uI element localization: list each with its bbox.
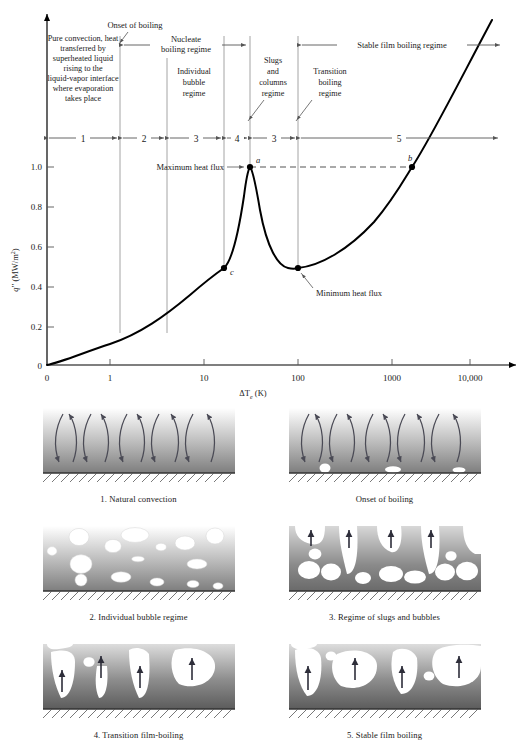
chart-axes [47, 14, 516, 365]
annotation-maximum-heat-flux-label: Maximum heat flux [156, 162, 224, 172]
regime-1-line: transferred by [60, 44, 107, 53]
panel-row-1: 1. Natural convection [0, 400, 523, 518]
y-axis-title: q′′ (MW/m2) [10, 248, 20, 291]
y-tick-label: 1.0 [31, 162, 43, 172]
panel-art-natural-convection [35, 400, 243, 492]
point-b-label: b [408, 153, 412, 163]
regime-2-line: bubble [183, 78, 206, 87]
regime-1-line: superheated liquid [53, 54, 113, 63]
regime-4-description: Transition boiling regime [296, 67, 347, 121]
panel-caption: 5. Stable film boiling [281, 730, 489, 740]
regime-1-line: takes place [65, 94, 102, 103]
regime-3-line: regime [262, 89, 285, 98]
point-a-maximum-heat-flux [247, 164, 253, 170]
span-nucleate-line1: Nucleate [171, 34, 201, 44]
regime-number: 1 [81, 134, 86, 144]
x-tick-label: 100 [291, 373, 305, 383]
point-c [221, 265, 227, 271]
panel-row-3: 4. Transition film-boiling [0, 636, 523, 754]
annotation-minimum-heat-flux-label: Minimum heat flux [316, 288, 383, 298]
y-axis-ticks: 1.0 0.8 0.6 0.4 0.2 0 [31, 162, 54, 371]
span-stable-film-label: Stable film boiling regime [357, 40, 447, 50]
x-tick-label: 1000 [383, 373, 402, 383]
point-b [409, 164, 415, 170]
panel-art-transition-film-boiling [35, 636, 243, 728]
span-stable-film-boiling-regime: Stable film boiling regime [302, 38, 500, 52]
regime-2-line: Individual [177, 67, 211, 76]
regime-number: 2 [142, 134, 147, 144]
regime-3-line: columns [259, 78, 287, 87]
regime-3-description: Slugs and columns regime [248, 56, 287, 121]
panel-natural-convection: 1. Natural convection [35, 400, 243, 518]
x-tick-label: 10 [200, 373, 210, 383]
panel-slugs-and-bubbles: 3. Regime of slugs and bubbles [281, 518, 489, 636]
panel-caption: 3. Regime of slugs and bubbles [281, 612, 489, 622]
point-minimum-heat-flux [295, 265, 301, 271]
regime-2-description: Individual bubble regime [177, 67, 211, 98]
panel-transition-film-boiling: 4. Transition film-boiling [35, 636, 243, 754]
regime-1-description: Pure convection, heat transferred by sup… [47, 34, 119, 103]
panel-art-individual-bubble [35, 518, 243, 610]
annotation-onset-of-boiling-label: Onset of boiling [107, 20, 163, 30]
svg-text:q′′ (MW/m2): q′′ (MW/m2) [10, 248, 20, 291]
regime-4-line: boiling [318, 78, 341, 87]
y-tick-label: 0 [38, 361, 43, 371]
y-tick-label: 0.8 [31, 202, 43, 212]
annotation-maximum-heat-flux: Maximum heat flux [156, 162, 244, 172]
regime-number: 3 [272, 134, 277, 144]
panel-caption: 1. Natural convection [35, 494, 243, 504]
y-tick-label: 0.4 [31, 282, 43, 292]
panel-caption: Onset of boiling [281, 494, 489, 504]
span-nucleate-boiling-regime: Nucleate boiling regime [124, 34, 246, 58]
panel-caption: 4. Transition film-boiling [35, 730, 243, 740]
regime-3-line: and [267, 67, 279, 76]
regime-1-line: liquid-vapor interface [47, 74, 119, 83]
panel-onset-of-boiling: Onset of boiling [281, 400, 489, 518]
regime-4-line: Transition [313, 67, 346, 76]
y-axis-title-paren: ) [10, 248, 20, 251]
panel-stable-film-boiling: 5. Stable film boiling [281, 636, 489, 754]
boiling-curve-chart: 1.0 0.8 0.6 0.4 0.2 0 0 1 10 100 1000 10… [0, 0, 523, 400]
regime-4-line: regime [319, 89, 342, 98]
point-c-label: c [230, 267, 234, 277]
panel-art-onset-of-boiling [281, 400, 489, 492]
x-tick-label: 0 [45, 373, 50, 383]
boiling-regime-illustrations: 1. Natural convection [0, 400, 523, 755]
panel-art-stable-film-boiling [281, 636, 489, 728]
y-tick-label: 0.6 [31, 242, 43, 252]
panel-art-slugs-and-bubbles [281, 518, 489, 610]
y-tick-label: 0.2 [31, 322, 42, 332]
y-axis-title-units: (MW/m [10, 254, 20, 282]
x-tick-label: 10,000 [458, 373, 483, 383]
annotation-minimum-heat-flux: Minimum heat flux [301, 273, 383, 298]
svg-text:ΔTe (K): ΔTe (K) [239, 388, 266, 400]
panel-caption: 2. Individual bubble regime [35, 612, 243, 622]
x-tick-label: 1 [108, 373, 113, 383]
panel-individual-bubble-regime: 2. Individual bubble regime [35, 518, 243, 636]
regime-1-line: rising to the [63, 64, 102, 73]
regime-1-line: where evaporation [53, 84, 114, 93]
point-a-label: a [256, 155, 260, 165]
regime-1-line: Pure convection, heat [48, 34, 119, 43]
x-axis-title-units: (K) [255, 388, 267, 398]
regime-number: 3 [194, 134, 199, 144]
regime-3-line: Slugs [264, 56, 282, 65]
regime-range-bars: 1 2 3 4 3 5 [49, 131, 498, 145]
regime-number: 4 [235, 134, 240, 144]
regime-number: 5 [397, 134, 402, 144]
regime-2-line: regime [183, 89, 206, 98]
span-nucleate-line2: boiling regime [161, 44, 211, 54]
x-axis-title: ΔTe (K) [239, 388, 266, 400]
panel-row-2: 2. Individual bubble regime [0, 518, 523, 636]
marked-points: a b c [221, 153, 415, 277]
x-axis-ticks: 0 1 10 100 1000 10,000 [45, 359, 483, 383]
